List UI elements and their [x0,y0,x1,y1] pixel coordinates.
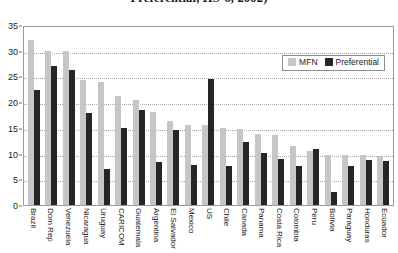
y-axis-tick-label: 25 [8,73,18,82]
y-axis-tick-label: 10 [8,150,18,159]
x-axis-cell: Guatemala [129,207,147,253]
bar-group [42,27,59,205]
x-axis-tick-label: Argentina [152,208,160,242]
x-axis-cell: Uruguay [94,207,112,253]
y-axis-tick-label: 5 [13,176,18,185]
y-axis-tick-label: 20 [8,99,18,108]
bar-preferential [191,165,197,205]
legend-label-preferential: Preferential [336,58,379,67]
legend-label-mfn: MFN [299,58,317,67]
bar-preferential [86,113,92,205]
bar-group [252,27,269,205]
x-axis-cell: Chile [217,207,235,253]
bar-preferential [383,161,389,205]
x-axis-cell: Argentina [147,207,165,253]
chart-title-strip: Preferential, HS-6, 2002) [0,0,398,11]
x-axis-cell: Peru [305,207,323,253]
x-axis-tick-label: Guatemala [134,208,142,247]
y-axis-tick-mark [19,51,22,52]
x-axis-cell: El Salvador [165,207,183,253]
bar-group [270,27,287,205]
x-axis-tick-label: El Salvador [169,208,177,249]
x-axis-tick-label: Panama [257,208,265,238]
bar-group [182,27,199,205]
legend-swatch-preferential-icon [325,58,333,66]
bar-preferential [313,149,319,205]
page-title: Preferential, HS-6, 2002) [0,0,398,6]
bar-group [217,27,234,205]
x-axis-tick-label: CARICOM [117,208,125,246]
bar-group [200,27,217,205]
bar-group [165,27,182,205]
bar-group [130,27,147,205]
y-axis-tick-label: 0 [13,202,18,211]
bar-group [112,27,129,205]
x-axis-cell: Mexico [182,207,200,253]
y-axis-tick-mark [19,103,22,104]
x-axis-cell: US [200,207,218,253]
x-axis-tick-label: Dom Rep [46,208,54,242]
bar-group [235,27,252,205]
y-axis: 05101520253035 [0,26,22,206]
x-axis-tick-label: Honduras [363,208,371,243]
chart-legend: MFN Preferential [282,55,385,71]
y-axis-tick-label: 35 [8,22,18,31]
x-axis-cell: Canada [235,207,253,253]
x-axis-tick-label: Costa Rica [275,208,283,247]
x-axis-tick-label: Ecuador [380,208,388,238]
x-axis-cell: Bolivia [323,207,341,253]
x-axis-cell: Brazil [24,207,42,253]
x-axis-tick-label: Brazil [29,208,37,228]
x-axis-cell: CARICOM [112,207,130,253]
x-axis-cell: Colombia [288,207,306,253]
bar-series-container [24,27,393,205]
x-axis: BrazilDom RepVenezuelaNicaraguaUruguayCA… [23,207,394,253]
chart-area: 05101520253035 MFN Preferential BrazilDo… [0,12,398,253]
bar-preferential [226,166,232,205]
y-axis-tick-mark [19,128,22,129]
x-axis-tick-label: Colombia [292,208,300,242]
bar-group [95,27,112,205]
x-axis-tick-label: Peru [310,208,318,225]
bar-group [25,27,42,205]
x-axis-tick-label: Nicaragua [82,208,90,244]
bar-group [60,27,77,205]
x-axis-tick-label: Uruguay [99,208,107,238]
y-axis-tick-mark [19,77,22,78]
y-axis-tick-mark [19,180,22,181]
x-axis-tick-label: Venezuela [64,208,72,245]
x-axis-cell: Paraguay [340,207,358,253]
bar-preferential [156,162,162,205]
bar-preferential [261,153,267,205]
bar-group [357,27,374,205]
x-axis-cell: Dom Rep [42,207,60,253]
bar-preferential [121,128,127,205]
x-axis-cell: Nicaragua [77,207,95,253]
x-axis-cell: Costa Rica [270,207,288,253]
legend-item-preferential: Preferential [325,58,379,67]
bar-preferential [278,159,284,205]
bar-preferential [296,166,302,205]
bar-preferential [69,70,75,205]
bar-group [147,27,164,205]
x-axis-tick-label: Bolivia [328,208,336,232]
bar-group [77,27,94,205]
bar-group [305,27,322,205]
y-axis-tick-label: 30 [8,47,18,56]
x-axis-cell: Venezuela [59,207,77,253]
y-axis-tick-mark [19,26,22,27]
x-axis-cell: Honduras [358,207,376,253]
plot-area: MFN Preferential [23,26,394,206]
legend-swatch-mfn-icon [288,58,296,66]
bar-preferential [366,160,372,205]
y-axis-tick-mark [19,154,22,155]
bar-preferential [243,142,249,205]
y-axis-tick-label: 15 [8,124,18,133]
bar-group [339,27,356,205]
x-axis-tick-label: Chile [222,208,230,226]
x-axis-cell: Ecuador [376,207,394,253]
legend-item-mfn: MFN [288,58,317,67]
bar-group [287,27,304,205]
x-axis-tick-label: Paraguay [345,208,353,242]
bar-preferential [331,192,337,205]
